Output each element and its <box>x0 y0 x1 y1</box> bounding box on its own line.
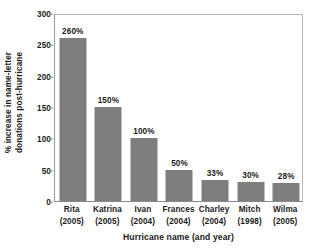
bar[interactable] <box>202 180 229 201</box>
y-axis-title-line-2: donations post-hurricane <box>15 52 26 153</box>
y-axis-tick-mark <box>49 139 53 140</box>
bar-value-label: 150% <box>98 96 119 105</box>
bar-value-label: 260% <box>62 27 83 36</box>
plot-area: 260%150%100%50%33%30%28% <box>54 14 303 202</box>
bar-chart: % increase in name-letter donations post… <box>0 0 313 250</box>
bar[interactable] <box>237 182 264 201</box>
hurricane-year: (2004) <box>131 216 155 228</box>
hurricane-year: (2005) <box>273 216 298 228</box>
bar-group: 100% <box>126 15 162 201</box>
y-axis-tick-label: 100 <box>28 135 51 144</box>
x-axis-tick-label: Charley(2004) <box>199 204 230 227</box>
bar[interactable] <box>273 183 300 201</box>
bar-value-label: 30% <box>242 171 259 180</box>
y-axis-title-line-1: % increase in name-letter <box>5 52 16 153</box>
bar-value-label: 33% <box>207 169 224 178</box>
y-axis-tick-labels: 050100150200250300 <box>28 0 51 250</box>
bar[interactable] <box>166 170 193 201</box>
x-axis-tick-labels: Rita(2005)Katrina(2005)Ivan(2004)Frances… <box>54 204 303 234</box>
bar-group: 33% <box>197 15 233 201</box>
y-axis-tick-mark <box>49 202 53 203</box>
hurricane-name: Charley <box>199 204 230 216</box>
hurricane-year: (1998) <box>238 216 262 228</box>
x-axis-tick-label: Mitch(1998) <box>238 204 262 227</box>
x-axis-title: Hurricane name (and year) <box>54 232 303 242</box>
bar[interactable] <box>95 107 122 201</box>
hurricane-name: Mitch <box>238 204 262 216</box>
hurricane-name: Ivan <box>131 204 155 216</box>
bar-value-label: 50% <box>171 159 188 168</box>
hurricane-year: (2004) <box>199 216 230 228</box>
bar[interactable] <box>59 38 86 201</box>
x-axis-tick-label: Ivan(2004) <box>131 204 155 227</box>
hurricane-name: Rita <box>60 204 84 216</box>
y-axis-tick-mark <box>49 14 53 15</box>
bar-group: 260% <box>55 15 91 201</box>
y-axis-tick-mark <box>49 76 53 77</box>
x-axis-tick-label: Katrina(2005) <box>93 204 122 227</box>
bar[interactable] <box>130 138 157 201</box>
y-axis-tick-mark <box>49 45 53 46</box>
bar-group: 28% <box>268 15 304 201</box>
hurricane-year: (2005) <box>93 216 122 228</box>
bar-group: 30% <box>233 15 269 201</box>
y-axis-tick-mark <box>49 170 53 171</box>
hurricane-name: Wilma <box>273 204 298 216</box>
hurricane-name: Frances <box>162 204 194 216</box>
x-axis-tick-label: Wilma(2005) <box>273 204 298 227</box>
bar-value-label: 100% <box>133 127 154 136</box>
y-axis-tick-label: 200 <box>28 72 51 81</box>
bar-value-label: 28% <box>278 172 295 181</box>
x-axis-tick-label: Frances(2004) <box>162 204 194 227</box>
y-axis-tick-label: 300 <box>28 10 51 19</box>
bars-layer: 260%150%100%50%33%30%28% <box>55 15 302 201</box>
bar-group: 50% <box>162 15 198 201</box>
y-axis-tick-label: 250 <box>28 41 51 50</box>
x-axis-tick-label: Rita(2005) <box>60 204 84 227</box>
y-axis-tick-label: 150 <box>28 104 51 113</box>
y-axis-title: % increase in name-letter donations post… <box>0 0 30 205</box>
bar-group: 150% <box>91 15 127 201</box>
y-axis-tick-mark <box>49 108 53 109</box>
hurricane-year: (2005) <box>60 216 84 228</box>
y-axis-tick-label: 50 <box>28 166 51 175</box>
hurricane-name: Katrina <box>93 204 122 216</box>
hurricane-year: (2004) <box>162 216 194 228</box>
y-axis-tick-label: 0 <box>28 198 51 207</box>
